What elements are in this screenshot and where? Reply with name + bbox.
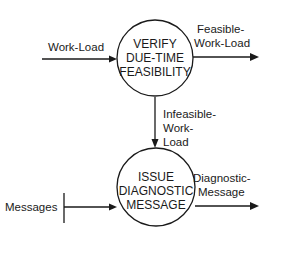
flow-diagnostic-message[interactable]: Diagnostic- Message — [193, 172, 259, 210]
flow-label: Work-Load — [48, 41, 104, 53]
process-label-line-1: VERIFY — [133, 37, 176, 51]
data-flow-diagram: VERIFY DUE-TIME FEASIBILITY DIAGNOSTIC I… — [0, 0, 282, 264]
flow-label-line-1: Infeasible- — [163, 108, 216, 120]
process-label-line-3: MESSAGE — [126, 198, 185, 212]
flow-label-line-2: Work-Load — [194, 37, 250, 49]
flow-label: Messages — [5, 201, 58, 213]
flow-infeasible-work-load[interactable]: Infeasible- Work- Load — [152, 97, 217, 148]
flow-label-line-1: Feasible- — [197, 23, 244, 35]
arrowhead-icon — [250, 202, 259, 210]
flow-label-line-3: Load — [163, 136, 189, 148]
process-label-line-3: FEASIBILITY — [119, 65, 190, 79]
flow-messages[interactable]: Messages — [5, 193, 117, 223]
flow-label-line-2: Message — [198, 186, 245, 198]
flow-label-line-1: Diagnostic- — [193, 172, 251, 184]
flow-feasible-work-load[interactable]: Feasible- Work-Load — [193, 23, 259, 61]
arrowhead-icon — [152, 139, 159, 148]
process-label-line-2: DUE-TIME — [126, 51, 184, 65]
arrowhead-icon — [250, 53, 259, 61]
process-label-line-1: ISSUE — [138, 170, 174, 184]
flow-work-load[interactable]: Work-Load — [42, 41, 117, 63]
process-issue-diagnostic-message[interactable]: DIAGNOSTIC ISSUE MESSAGE — [117, 148, 195, 226]
arrowhead-icon — [109, 56, 117, 63]
process-label-line-2: DIAGNOSTIC — [119, 184, 194, 198]
flow-label-line-2: Work- — [163, 122, 194, 134]
arrowhead-icon — [109, 204, 117, 211]
process-verify-due-time-feasibility[interactable]: VERIFY DUE-TIME FEASIBILITY — [117, 20, 193, 96]
